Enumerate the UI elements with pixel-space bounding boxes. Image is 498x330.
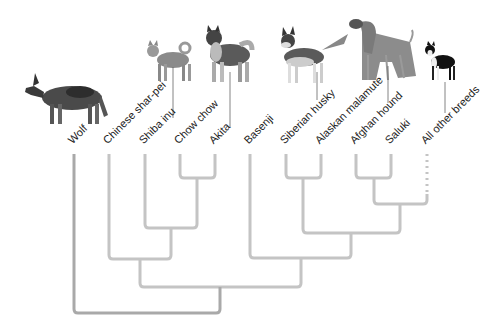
branch-sighthounds-other [374, 178, 427, 204]
branch-all-dogs [140, 258, 301, 287]
tree-branches [109, 154, 427, 287]
branch-sharpei-group [109, 154, 171, 259]
branch-shiba-group [145, 154, 197, 228]
wolf-image [25, 73, 108, 124]
siberian-husky-image [281, 26, 348, 83]
cladogram-svg [0, 0, 498, 330]
akita-image [206, 25, 252, 82]
afghan-hound-image [349, 19, 416, 80]
shiba-inu-image [147, 40, 191, 81]
branch-chow-akita [180, 154, 215, 178]
branch-basenji-group [250, 154, 351, 258]
boston-terrier-image [425, 41, 455, 80]
dog-breed-cladogram: Wolf Chinese shar-pei Shiba inu Chow cho… [0, 0, 498, 330]
branch-afghan-saluki [356, 154, 391, 178]
branch-husky-malamute [286, 154, 321, 178]
